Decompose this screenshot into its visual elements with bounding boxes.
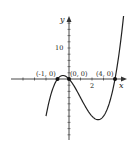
y-axis-label: y <box>59 15 65 24</box>
point-label-neg1-0: (-1, 0) <box>36 70 56 78</box>
point-4-0 <box>113 77 117 81</box>
chart-plot: y x 10 2 (-1, 0) (0, 0) (4, 0) <box>0 0 136 148</box>
y-axis-arrow-icon <box>67 16 72 22</box>
x-tick-label-2: 2 <box>90 82 94 90</box>
point-label-0-0: (0, 0) <box>70 70 88 78</box>
point-label-4-0: (4, 0) <box>96 70 114 78</box>
x-axis-label: x <box>119 81 124 90</box>
point-neg1-0 <box>56 77 60 81</box>
y-tick-label-10: 10 <box>55 44 63 52</box>
cubic-curve <box>46 0 131 120</box>
